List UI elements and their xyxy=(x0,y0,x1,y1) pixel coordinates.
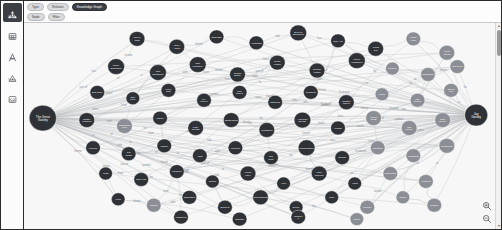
graph-node[interactable]: Louisville xyxy=(169,165,184,179)
graph-node[interactable]: Novel xyxy=(350,213,364,226)
filter-pill-filter[interactable]: Filter xyxy=(48,13,65,21)
graph-node[interactable]: Midwest xyxy=(419,175,434,189)
graph-node[interactable]: Minnesota xyxy=(383,167,398,181)
scroll-down-icon[interactable]: ▼ xyxy=(497,224,501,228)
graph-node[interactable]: EllaKaye xyxy=(126,92,140,105)
graph-node[interactable]: ChesterMcKee xyxy=(339,95,355,110)
graph-node[interactable]: Memory xyxy=(360,200,375,214)
graph-node[interactable]: NickCarraway xyxy=(189,57,206,73)
sidebar-item-table[interactable]: Table xyxy=(3,24,22,43)
graph-node[interactable]: SocialClass xyxy=(366,111,382,126)
graph-node[interactable]: Catherine xyxy=(268,95,283,109)
graph-node[interactable]: PartyGuests xyxy=(188,121,204,136)
graph-node[interactable]: JordanBaker xyxy=(230,67,246,82)
graph-hub-node[interactable]: The GreatGatsby xyxy=(29,105,56,131)
graph-node[interactable]: Owl Eyes xyxy=(450,60,465,74)
filter-pill-relation[interactable]: Relation xyxy=(47,3,69,11)
graph-node-label: Time xyxy=(329,196,335,198)
sidebar-item-vision[interactable]: Vision xyxy=(3,66,22,85)
graph-node[interactable]: GatsbyMansion xyxy=(79,113,95,128)
graph-node[interactable]: MeyerWolfsheim xyxy=(348,53,365,69)
graph-node[interactable]: EwingKlip xyxy=(444,83,459,97)
graph-node[interactable]: Army xyxy=(277,177,291,190)
graph-node[interactable]: Obsession xyxy=(182,190,197,204)
filter-pill-knowledge-graph[interactable]: Knowledge Graph xyxy=(72,3,108,11)
scrollbar-thumb[interactable] xyxy=(497,30,501,56)
graph-node[interactable]: Carelessness xyxy=(253,190,269,205)
vertical-scrollbar[interactable]: ▲ ▼ xyxy=(495,23,501,229)
sidebar-item-code[interactable]: Code xyxy=(3,87,22,106)
graph-node[interactable]: PlazaHotel xyxy=(406,32,421,46)
graph-node[interactable]: YellowCar xyxy=(368,41,384,56)
filter-pill-node[interactable]: Node xyxy=(27,13,45,21)
graph-node[interactable]: AmericanDream xyxy=(294,112,311,128)
graph-node[interactable]: Oxford xyxy=(206,175,220,188)
graph-node[interactable]: East Egg xyxy=(209,30,224,44)
graph-node[interactable]: Eyes ofEckleburg xyxy=(290,25,307,41)
graph-node[interactable]: ValleyAshes xyxy=(169,39,185,54)
graph-node[interactable]: HenryGatz xyxy=(161,83,176,97)
graph-node[interactable]: Suicide xyxy=(335,151,350,165)
edge-label: at xyxy=(110,132,113,136)
graph-node[interactable]: Flashback xyxy=(406,149,421,163)
graph-node[interactable]: Michaelis xyxy=(303,85,318,99)
graph-node[interactable]: Mr.McKee xyxy=(197,93,212,107)
graph-canvas[interactable]: hasofisbywithloveslivesmeetspart ofsymbo… xyxy=(24,23,495,229)
zoom-controls xyxy=(482,201,492,224)
zoom-in-button[interactable] xyxy=(482,201,492,211)
sidebar-item-text[interactable]: Text xyxy=(3,45,22,64)
graph-node[interactable]: Fitzgerald xyxy=(174,210,189,224)
graph-node[interactable]: Narrator xyxy=(232,212,247,226)
graph-node[interactable]: Jazz Age xyxy=(331,34,346,48)
filter-pill-type[interactable]: Type xyxy=(27,3,44,11)
graph-node[interactable]: Pammy xyxy=(386,62,400,75)
graph-node[interactable]: Dan Cody xyxy=(90,85,105,99)
graph-node[interactable]: Confrontation xyxy=(298,140,315,156)
graph-node[interactable]: TomBuchanan xyxy=(150,65,167,81)
zoom-out-button[interactable] xyxy=(482,214,492,224)
graph-node[interactable]: West Egg xyxy=(249,36,264,50)
graph-node[interactable]: Time xyxy=(325,191,339,204)
graph-node[interactable]: NewMoney xyxy=(435,113,451,128)
graph-node[interactable]: Chapter1 xyxy=(291,210,306,224)
graph-node[interactable]: GreenLight xyxy=(129,31,145,46)
graph-node[interactable]: Hope xyxy=(111,193,125,206)
graph-node[interactable]: Wealth xyxy=(331,121,346,135)
scroll-up-icon[interactable]: ▲ xyxy=(497,24,501,28)
graph-node[interactable]: SwimmingPool xyxy=(117,119,133,134)
graph-node[interactable]: Mrs.McKee xyxy=(232,85,247,99)
graph-node[interactable]: Affair xyxy=(193,149,208,163)
graph-node[interactable]: Reunion xyxy=(228,141,243,155)
graph-node[interactable]: 1922 xyxy=(99,167,113,180)
graph-node[interactable]: GeorgeWilson xyxy=(309,63,325,78)
graph-node[interactable]: Symbolism xyxy=(439,138,455,153)
edge-label: lives xyxy=(338,114,344,118)
edge-label: loves xyxy=(203,70,210,74)
graph-node[interactable]: Illusion xyxy=(146,198,161,212)
sidebar-item-graph[interactable]: Graph xyxy=(3,3,22,22)
graph-node[interactable]: Betrayal xyxy=(218,200,233,214)
graph-node[interactable]: CarCrash xyxy=(121,147,136,161)
graph-hub-node[interactable]: JayGatsby xyxy=(465,104,488,126)
graph-node[interactable]: TeaParty xyxy=(264,151,279,165)
graph-node[interactable]: LakeSuperior xyxy=(311,166,327,181)
graph-node[interactable]: New York xyxy=(134,173,149,187)
graph-node[interactable]: Tragedy xyxy=(427,198,442,212)
graph-node[interactable]: LongIsland xyxy=(439,45,455,60)
graph-node[interactable]: Klipspringer xyxy=(421,68,436,82)
graph-node[interactable]: Lucille xyxy=(375,88,389,101)
graph-node[interactable]: DaisyBuchanan xyxy=(108,59,125,75)
knowledge-graph[interactable]: hasofisbywithloveslivesmeetspart ofsymbo… xyxy=(24,23,495,229)
graph-node[interactable]: Bootlegging xyxy=(223,113,239,128)
graph-node[interactable]: Narration xyxy=(370,141,385,155)
graph-node[interactable]: Murder xyxy=(157,139,172,153)
graph-node[interactable]: MyrtleWilson xyxy=(269,55,285,70)
graph-node[interactable]: Funeral xyxy=(86,141,101,155)
graph-node[interactable]: Desire xyxy=(396,191,410,204)
graph-node[interactable]: WorldWar I xyxy=(240,166,256,181)
graph-node[interactable]: Library xyxy=(153,111,168,125)
graph-node[interactable]: Yacht xyxy=(348,177,362,190)
graph-node[interactable]: Mrs.Sloane xyxy=(410,93,425,107)
graph-node[interactable]: Prohibition xyxy=(259,123,275,138)
graph-node[interactable]: OldMoney xyxy=(401,121,417,136)
